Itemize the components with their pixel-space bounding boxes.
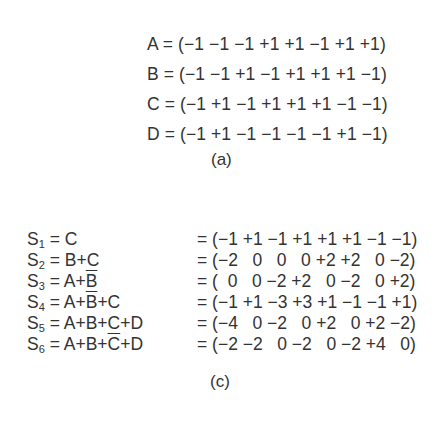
complement-term: C [108, 334, 121, 354]
sum-lhs: S6 = A+B+C+D [27, 334, 143, 354]
sum-row-3: S3 = A+B = ( 0 0 −2 +2 0 −2 0 +2) [27, 271, 46, 291]
sum-expression: = A+B+C+D [45, 313, 143, 333]
vector-a: A = (−1 −1 −1 +1 +1 −1 +1 +1) [147, 34, 386, 54]
complement-term: B [86, 271, 98, 291]
sum-result: = ( 0 0 −2 +2 0 −2 0 +2) [197, 271, 415, 291]
sum-result: = (−2 0 0 0 +2 +2 0 −2) [197, 250, 415, 270]
sum-expression: = A+ [45, 292, 86, 312]
sum-lhs: S1 = C [27, 229, 77, 249]
vector-c: C = (−1 +1 −1 +1 +1 +1 −1 −1) [147, 94, 388, 114]
sum-result: = (−1 +1 −1 +1 +1 +1 −1 −1) [197, 229, 417, 249]
vector-d: D = (−1 +1 −1 −1 −1 −1 +1 −1) [147, 124, 388, 144]
sum-expression: = A+ [45, 271, 86, 291]
complement-term: B [86, 292, 98, 312]
caption-c: (c) [210, 372, 230, 392]
sum-row-1: S1 = C = (−1 +1 −1 +1 +1 +1 −1 −1) [27, 229, 46, 249]
sum-symbol: S [27, 250, 39, 270]
sum-row-4: S4 = A+B+C = (−1 +1 −3 +3 +1 −1 −1 +1) [27, 292, 46, 312]
sum-symbol: S [27, 229, 39, 249]
sum-row-2: S2 = B+C = (−2 0 0 0 +2 +2 0 −2) [27, 250, 46, 270]
vector-b: B = (−1 −1 +1 −1 +1 +1 +1 −1) [147, 64, 387, 84]
sum-result: = (−4 0 −2 0 +2 0 +2 −2) [197, 313, 416, 333]
sum-symbol: S [27, 313, 39, 333]
sum-row-6: S6 = A+B+C+D = (−2 −2 0 −2 0 −2 +4 0) [27, 334, 46, 354]
sum-expression-tail: +C [97, 292, 120, 312]
caption-a: (a) [211, 150, 232, 170]
sum-symbol: S [27, 334, 39, 354]
sum-lhs: S4 = A+B+C [27, 292, 120, 312]
sum-symbol: S [27, 292, 39, 312]
sum-lhs: S5 = A+B+C+D [27, 313, 143, 333]
sum-symbol: S [27, 271, 39, 291]
sum-expression: = A+B+ [45, 334, 108, 354]
sum-lhs: S3 = A+B [27, 271, 97, 291]
sum-expression: = C [45, 229, 78, 249]
sum-result: = (−2 −2 0 −2 0 −2 +4 0) [197, 334, 416, 354]
sum-lhs: S2 = B+C [27, 250, 99, 270]
sum-expression-tail: +D [120, 334, 143, 354]
sum-row-5: S5 = A+B+C+D = (−4 0 −2 0 +2 0 +2 −2) [27, 313, 46, 333]
sum-result: = (−1 +1 −3 +3 +1 −1 −1 +1) [197, 292, 417, 312]
sum-expression: = B+C [45, 250, 99, 270]
